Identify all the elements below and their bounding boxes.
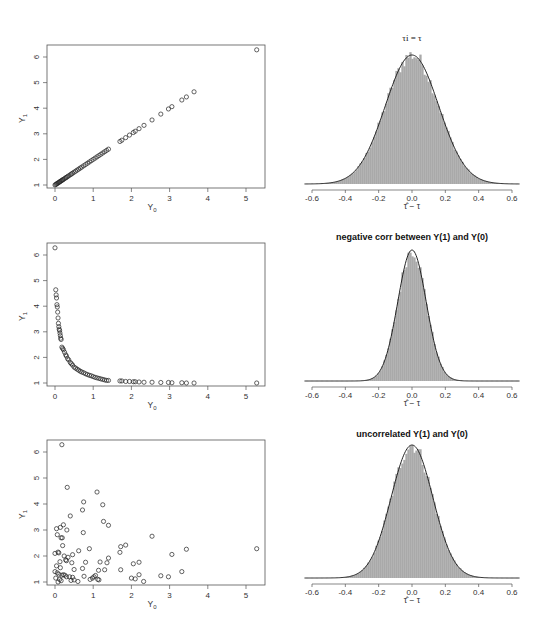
x-tick-label: 0.6 — [506, 194, 518, 203]
x-tick-label: -0.4 — [338, 194, 352, 203]
panel-title: τi = τ — [402, 33, 422, 43]
x-axis-label: τ̂ − τ — [404, 398, 421, 408]
x-tick-label: 3 — [167, 591, 172, 600]
data-point — [180, 98, 184, 102]
histogram-bar — [411, 256, 413, 381]
data-point — [83, 560, 87, 564]
x-tick-label: 0 — [53, 591, 58, 600]
data-point — [255, 381, 259, 385]
y-tick-label: 1 — [32, 182, 41, 187]
histogram-bar — [379, 537, 381, 578]
histogram-bar — [409, 52, 411, 184]
data-points — [53, 443, 259, 584]
histogram-bar — [439, 113, 441, 184]
x-tick-label: 0 — [53, 194, 58, 203]
histogram-bars — [319, 52, 505, 184]
histogram-bar — [459, 159, 461, 184]
y-tick-label: 5 — [32, 80, 41, 85]
x-axis-label: Y0 — [147, 400, 157, 411]
histogram-bar — [477, 178, 479, 184]
data-point — [142, 380, 146, 384]
histogram-bar — [377, 541, 379, 578]
histogram-bar — [403, 66, 405, 184]
scatter-panel-negative: 012345123456Y0Y1 — [17, 243, 265, 411]
data-point — [87, 547, 91, 551]
histogram-bar — [391, 329, 393, 381]
x-tick-label: 2 — [129, 591, 134, 600]
histogram-bar — [433, 344, 435, 381]
histogram-bar — [449, 137, 451, 184]
data-point — [56, 316, 60, 320]
x-tick-label: 1 — [91, 194, 96, 203]
histogram-bar — [419, 55, 421, 184]
histogram-bar — [395, 474, 397, 578]
x-tick-label: -0.2 — [372, 194, 386, 203]
histogram-bar — [377, 123, 379, 184]
data-point — [137, 127, 141, 131]
histogram-bar — [393, 481, 395, 578]
histogram-bar — [423, 289, 425, 381]
data-point — [65, 485, 69, 489]
histogram-bar — [413, 453, 415, 578]
histogram-bar — [457, 156, 459, 184]
x-tick-label: 5 — [244, 392, 249, 401]
data-point — [65, 528, 69, 532]
histogram-panel-identical: -0.6-0.4-0.20.00.20.40.6τ̂ − ττi = τ — [305, 33, 520, 211]
histogram-bar — [349, 175, 351, 184]
histogram-bar — [419, 267, 421, 381]
histogram-bar — [431, 93, 433, 184]
scatter-panel-uncorrelated: 012345123456Y0Y1 — [17, 440, 265, 610]
y-tick-label: 1 — [32, 380, 41, 385]
data-point — [77, 549, 81, 553]
histogram-bar — [421, 65, 423, 184]
data-points — [53, 246, 259, 385]
histogram-bar — [429, 324, 431, 381]
data-point — [106, 523, 110, 527]
histogram-bar — [379, 371, 381, 381]
x-tick-label: 0.2 — [440, 391, 452, 400]
histogram-bar — [427, 316, 429, 381]
data-point — [137, 573, 141, 577]
histogram-bar — [415, 58, 417, 184]
y-tick-label: 2 — [32, 553, 41, 558]
histogram-bar — [411, 59, 413, 184]
histogram-bar — [429, 488, 431, 578]
histogram-bar — [399, 292, 401, 381]
histogram-bar — [447, 550, 449, 578]
y-tick-label: 4 — [32, 303, 41, 308]
histogram-bar — [363, 158, 365, 184]
data-point — [66, 357, 70, 361]
data-point — [55, 533, 59, 537]
histogram-bar — [395, 310, 397, 381]
histogram-bar — [435, 352, 437, 381]
data-point — [61, 523, 65, 527]
histogram-bar — [463, 166, 465, 184]
data-point — [82, 574, 86, 578]
histogram-bar — [455, 564, 457, 578]
data-point — [170, 552, 174, 556]
histogram-bar — [375, 131, 377, 184]
histogram-bar — [393, 322, 395, 381]
data-point — [58, 560, 62, 564]
histogram-bar — [367, 152, 369, 184]
x-tick-label: 3 — [167, 194, 172, 203]
histogram-bar — [441, 114, 443, 184]
histogram-bar — [407, 253, 409, 381]
data-point — [150, 534, 154, 538]
data-point — [192, 381, 196, 385]
data-point — [180, 381, 184, 385]
histogram-bar — [369, 148, 371, 184]
data-point — [80, 508, 84, 512]
data-point — [118, 550, 122, 554]
histogram-bar — [347, 177, 349, 184]
data-point — [159, 112, 163, 116]
data-point — [124, 136, 128, 140]
y-tick-label: 6 — [32, 252, 41, 257]
histogram-bar — [345, 178, 347, 184]
histogram-bar — [441, 531, 443, 578]
histogram-bars — [363, 253, 461, 381]
histogram-bar — [421, 465, 423, 578]
histogram-bar — [429, 80, 431, 184]
x-tick-label: -0.6 — [305, 588, 319, 597]
histogram-bar — [365, 153, 367, 184]
